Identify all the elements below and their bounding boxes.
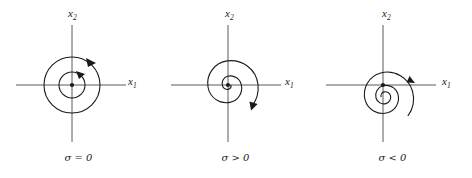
phase-portrait-figure: x2 x1 σ = 0 x2 x1 σ > 0 <box>0 0 472 178</box>
caption-text: σ > 0 <box>222 152 250 163</box>
flow-arrow-outward <box>249 102 257 111</box>
equilibrium-dot <box>381 83 385 87</box>
caption-text: σ < 0 <box>379 152 407 163</box>
panel-sigma-zero: x2 x1 σ = 0 <box>0 0 157 178</box>
panel-caption-sigma-zero: σ = 0 <box>0 152 157 163</box>
panel-caption-sigma-positive: σ > 0 <box>157 152 314 163</box>
equilibrium-dot <box>226 83 230 87</box>
panel-sigma-positive: x2 x1 σ > 0 <box>157 0 314 178</box>
stable-spiral-path <box>364 72 413 116</box>
flow-arrow-inner <box>76 71 85 79</box>
panel-sigma-negative: x2 x1 σ < 0 <box>314 0 471 178</box>
axis-label-x1: x1 <box>442 76 451 90</box>
caption-text: σ = 0 <box>65 152 93 163</box>
axis-label-x2: x2 <box>68 8 77 22</box>
flow-arrow-outer <box>86 58 96 67</box>
panel-caption-sigma-negative: σ < 0 <box>314 152 471 163</box>
axis-label-x2: x2 <box>225 8 234 22</box>
equilibrium-dot <box>70 83 74 87</box>
axis-label-x2: x2 <box>382 8 391 22</box>
axis-label-x1: x1 <box>285 76 294 90</box>
flow-arrow-inward <box>407 76 415 83</box>
unstable-spiral-path <box>208 61 259 105</box>
axis-label-x1: x1 <box>128 76 137 90</box>
